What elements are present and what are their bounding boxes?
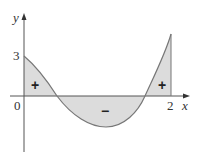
area-diagram: y 3 0 2 x + − + — [0, 0, 202, 163]
x-tick-2: 2 — [167, 98, 174, 113]
y-tick-3: 3 — [13, 48, 20, 63]
positive-sign-left: + — [31, 77, 39, 93]
y-axis-label: y — [11, 10, 19, 25]
x-axis-label: x — [181, 98, 188, 113]
y-axis-arrow-icon — [22, 13, 27, 20]
negative-sign: − — [101, 103, 109, 119]
shaded-region-left — [24, 56, 57, 96]
positive-sign-right: + — [158, 77, 166, 93]
x-tick-0: 0 — [14, 98, 21, 113]
